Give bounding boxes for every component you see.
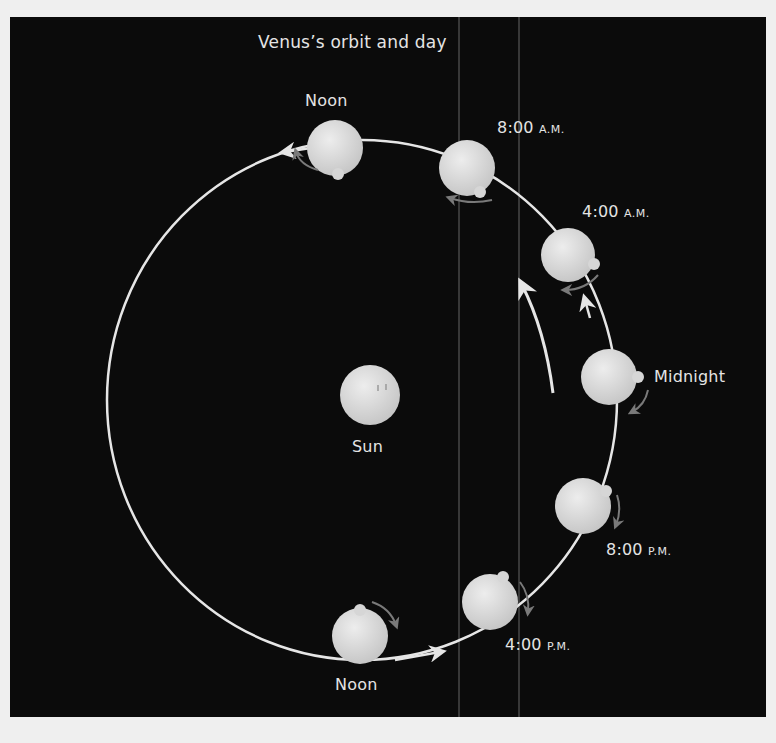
venus-8am bbox=[439, 140, 495, 202]
time-suffix: P.M. bbox=[648, 545, 671, 558]
time-label: 4:00 bbox=[505, 635, 542, 654]
orbit-diagram bbox=[10, 17, 766, 717]
time-suffix: A.M. bbox=[539, 123, 565, 136]
venus-midnight bbox=[581, 349, 648, 412]
venus-noon-top bbox=[296, 120, 363, 180]
time-label: 8:00 bbox=[497, 118, 534, 137]
label-noon-top: Noon bbox=[305, 91, 348, 110]
time-suffix: A.M. bbox=[624, 207, 650, 220]
time-label: Midnight bbox=[654, 367, 725, 386]
time-suffix: P.M. bbox=[547, 640, 570, 653]
venus-8pm bbox=[555, 478, 619, 534]
diagram-title: Venus’s orbit and day bbox=[258, 32, 447, 52]
time-label: 4:00 bbox=[582, 202, 619, 221]
venus-4pm bbox=[462, 571, 528, 630]
venus-4am bbox=[541, 228, 600, 290]
sun-icon bbox=[340, 365, 400, 425]
label-4am: 4:00 A.M. bbox=[582, 202, 650, 221]
venus-noon-bottom bbox=[332, 602, 396, 664]
label-8pm: 8:00 P.M. bbox=[606, 540, 671, 559]
label-noon-bottom: Noon bbox=[335, 675, 378, 694]
large-orbit-direction-arrow-icon bbox=[522, 285, 553, 393]
sun-label: Sun bbox=[352, 437, 383, 456]
label-4pm: 4:00 P.M. bbox=[505, 635, 570, 654]
label-midnight: Midnight bbox=[654, 367, 725, 386]
time-label: Noon bbox=[335, 675, 378, 694]
time-label: Noon bbox=[305, 91, 348, 110]
time-label: 8:00 bbox=[606, 540, 643, 559]
diagram-panel: Venus’s orbit and day Noon 8:00 A.M. 4:0… bbox=[10, 17, 766, 717]
label-8am: 8:00 A.M. bbox=[497, 118, 565, 137]
orbit-direction-arrow-icon bbox=[585, 300, 590, 318]
